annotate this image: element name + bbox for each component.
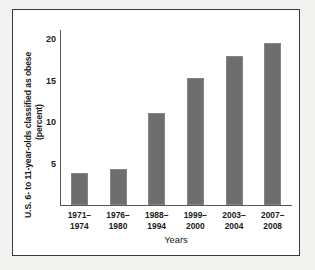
x-tick-label-2003-2004: 2003– 2004: [215, 210, 254, 231]
x-axis-line: [60, 205, 292, 206]
y-tick-label-5: 5: [36, 159, 56, 170]
y-tick-20: 20: [36, 34, 56, 45]
x-tick-label-1988-1994: 1988– 1994: [137, 210, 176, 231]
bar-1971-1974[interactable]: [71, 173, 88, 205]
y-tick-label-15: 15: [36, 76, 56, 87]
x-tick-label-1999-2000: 1999– 2000: [176, 210, 215, 231]
x-axis-title: Years: [60, 234, 292, 245]
bar-1976-1980[interactable]: [110, 169, 127, 205]
plot-area: 5 10 15 20 1971– 1974 1976– 1980 1988– 1…: [0, 0, 315, 270]
bar-2003-2004[interactable]: [226, 56, 243, 205]
x-tick-label-1976-1980: 1976– 1980: [99, 210, 138, 231]
y-tick-15: 15: [36, 76, 56, 87]
x-tick-label-2007-2008: 2007– 2008: [253, 210, 292, 231]
x-tick-label-1971-1974: 1971– 1974: [60, 210, 99, 231]
figure-background: U.S. 6- to 11-year-olds classified as ob…: [0, 0, 315, 270]
y-tick-label-20: 20: [36, 34, 56, 45]
y-tick-10: 10: [36, 117, 56, 128]
y-axis-line: [60, 30, 61, 206]
bar-2007-2008[interactable]: [264, 43, 281, 205]
y-tick-5: 5: [36, 159, 56, 170]
y-tick-label-10: 10: [36, 117, 56, 128]
bar-1988-1994[interactable]: [148, 113, 165, 205]
bar-1999-2000[interactable]: [187, 78, 204, 205]
